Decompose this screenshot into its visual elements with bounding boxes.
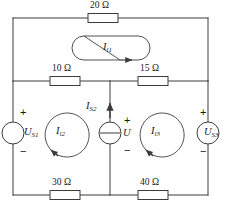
resistor-body-mid-left xyxy=(50,77,80,86)
resistor-body-mid-right xyxy=(138,77,168,86)
mesh-current-symbol-right: I xyxy=(151,125,155,136)
resistor-label-top: 20 Ω xyxy=(90,1,109,11)
current-source-label: IS2 xyxy=(86,101,97,112)
current-source-voltage-label: U xyxy=(123,128,131,139)
current-source-plus: + xyxy=(124,115,130,126)
mesh-current-subscript-left: l2 xyxy=(60,130,65,138)
current-source-minus: − xyxy=(124,145,130,156)
mesh-current-label-right: Il3 xyxy=(151,126,160,137)
resistor-label-bot-left: 30 Ω xyxy=(52,178,71,188)
mesh-loop-left xyxy=(45,113,89,157)
resistor-label-mid-right: 15 Ω xyxy=(140,64,159,74)
mesh-current-subscript-top: l1 xyxy=(107,46,112,54)
voltage-source-left-minus: − xyxy=(20,146,26,157)
resistor-body-bot-left xyxy=(50,191,80,200)
voltage-source-right-symbol: U xyxy=(204,126,212,137)
mesh-current-symbol-left: I xyxy=(56,125,60,136)
mesh-loop-right xyxy=(140,113,184,157)
voltage-source-left-label: US1 xyxy=(24,127,39,138)
circuit-diagram: 20 Ω 10 Ω 15 Ω 30 Ω 40 Ω Il1 Il2 Il3 + U… xyxy=(0,0,231,209)
voltage-source-left-circle xyxy=(2,122,24,144)
voltage-source-right-plus: + xyxy=(200,107,206,118)
voltage-source-right-minus: − xyxy=(200,146,206,157)
resistor-label-bot-right: 40 Ω xyxy=(140,178,159,188)
mesh-current-symbol-top: I xyxy=(103,41,107,52)
mesh-current-label-top: Il1 xyxy=(103,42,112,53)
voltage-source-left-subscript: S1 xyxy=(32,131,39,139)
current-source-symbol: I xyxy=(86,100,90,111)
voltage-source-right-subscript: S3 xyxy=(212,131,219,139)
mesh-current-subscript-right: l3 xyxy=(155,130,160,138)
resistor-body-bot-right xyxy=(138,191,168,200)
resistor-body-top xyxy=(88,14,118,23)
voltage-source-left-plus: + xyxy=(20,107,26,118)
voltage-source-right-label: US3 xyxy=(204,127,219,138)
resistor-label-mid-left: 10 Ω xyxy=(52,64,71,74)
circuit-schematic-svg xyxy=(0,0,231,209)
current-source-subscript: S2 xyxy=(90,105,97,113)
mesh-current-label-left: Il2 xyxy=(56,126,65,137)
voltage-source-left-symbol: U xyxy=(24,126,32,137)
